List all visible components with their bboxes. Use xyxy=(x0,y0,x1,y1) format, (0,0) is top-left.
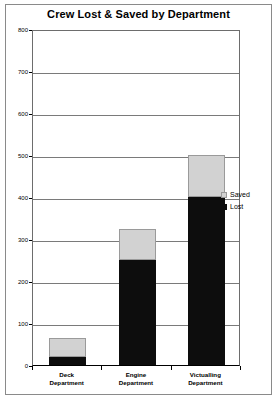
bar-segment-lost xyxy=(119,260,156,365)
category-label-line: Department xyxy=(96,379,176,387)
category-label-line: Department xyxy=(27,379,107,387)
y-axis-tick-label: 0 xyxy=(2,363,28,369)
y-axis-tick-label: 200 xyxy=(2,279,28,285)
legend-label: Lost xyxy=(230,203,243,211)
bar-segment-saved xyxy=(119,229,156,261)
x-axis-tick-mark xyxy=(171,366,172,370)
x-axis-tick-mark xyxy=(240,366,241,370)
bar-segment-saved xyxy=(188,155,225,197)
chart-title: Crew Lost & Saved by Department xyxy=(10,8,267,20)
gridline xyxy=(33,73,239,74)
category-label-line: Victualling xyxy=(165,371,245,379)
legend-label: Saved xyxy=(230,191,250,199)
y-axis-tick-label: 300 xyxy=(2,237,28,243)
stacked-bar xyxy=(119,229,156,366)
category-label: EngineDepartment xyxy=(96,371,176,387)
y-axis-tick-label: 500 xyxy=(2,153,28,159)
chart-legend: SavedLost xyxy=(221,190,269,214)
category-label: DeckDepartment xyxy=(27,371,107,387)
legend-item: Lost xyxy=(221,202,269,212)
bar-segment-lost xyxy=(188,197,225,365)
x-axis-tick-mark xyxy=(101,366,102,370)
gridline xyxy=(33,115,239,116)
category-label-line: Engine xyxy=(96,371,176,379)
bar-segment-saved xyxy=(49,338,86,357)
y-axis-tick-label: 700 xyxy=(2,69,28,75)
y-axis-tick-label: 800 xyxy=(2,27,28,33)
chart-figure: Crew Lost & Saved by Department 01002003… xyxy=(0,0,279,401)
legend-swatch-icon xyxy=(221,192,227,198)
y-axis-tick-label: 600 xyxy=(2,111,28,117)
category-label: VictuallingDepartment xyxy=(165,371,245,387)
legend-swatch-icon xyxy=(221,204,227,210)
y-axis-tick-label: 100 xyxy=(2,321,28,327)
stacked-bar xyxy=(188,155,225,365)
plot-area xyxy=(32,30,240,366)
y-axis-tick-label: 400 xyxy=(2,195,28,201)
legend-item: Saved xyxy=(221,190,269,200)
category-label-line: Department xyxy=(165,379,245,387)
bar-segment-lost xyxy=(49,357,86,365)
category-label-line: Deck xyxy=(27,371,107,379)
stacked-bar xyxy=(49,338,86,365)
x-axis-tick-mark xyxy=(32,366,33,370)
